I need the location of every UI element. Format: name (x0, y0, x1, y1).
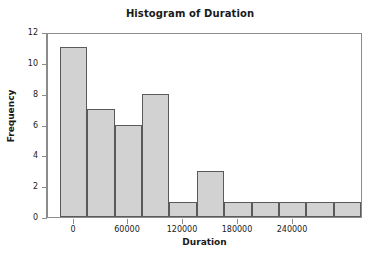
plot-area (47, 33, 362, 218)
histogram-bar (306, 202, 333, 217)
x-axis-tick-label: 60000 (97, 226, 157, 234)
x-axis-tick-label: 240000 (262, 226, 322, 234)
x-axis-tick-label: 0 (43, 226, 103, 234)
x-axis-title: Duration (47, 237, 362, 247)
x-axis-tick (292, 219, 293, 224)
histogram-figure: Histogram of Duration Frequency Duration… (0, 0, 380, 258)
histogram-bar (60, 47, 87, 217)
histogram-bar (87, 109, 114, 217)
y-axis-tick (42, 33, 47, 34)
histogram-bar (224, 202, 251, 217)
y-axis-tick (42, 218, 47, 219)
histogram-bar (169, 202, 196, 217)
y-axis-tick (42, 156, 47, 157)
y-axis-tick-label: 0 (0, 214, 38, 222)
x-axis-tick (237, 219, 238, 224)
y-axis-tick-label: 4 (0, 152, 38, 160)
x-axis-tick-label: 120000 (152, 226, 212, 234)
y-axis-tick-label: 2 (0, 183, 38, 191)
y-axis-tick-label: 8 (0, 91, 38, 99)
y-axis-tick-label: 6 (0, 122, 38, 130)
y-axis-tick (42, 126, 47, 127)
histogram-bar (197, 171, 224, 217)
histogram-bar (334, 202, 361, 217)
bars-layer (48, 34, 361, 217)
y-axis-title: Frequency (6, 76, 16, 156)
x-axis-tick-label: 180000 (207, 226, 267, 234)
x-axis-tick (73, 219, 74, 224)
x-axis-tick (182, 219, 183, 224)
histogram-bar (115, 125, 142, 218)
histogram-bar (279, 202, 306, 217)
histogram-bar (252, 202, 279, 217)
histogram-bar (142, 94, 169, 217)
y-axis-tick-label: 10 (0, 60, 38, 68)
y-axis-tick (42, 95, 47, 96)
y-axis-tick-label: 12 (0, 29, 38, 37)
x-axis-tick (127, 219, 128, 224)
chart-title: Histogram of Duration (0, 8, 380, 19)
y-axis-tick (42, 64, 47, 65)
y-axis-tick (42, 187, 47, 188)
